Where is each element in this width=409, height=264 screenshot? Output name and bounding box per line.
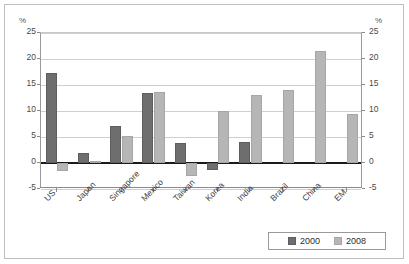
bar-japan-2008: [90, 161, 101, 163]
legend-item-2000: 2000: [288, 236, 320, 246]
gridline-20: [41, 59, 361, 60]
y-tick-right-10: 10: [369, 105, 391, 114]
bar-india-2008: [251, 95, 262, 163]
chart-legend: 2000 2008: [268, 232, 386, 250]
legend-swatch-2008: [334, 237, 342, 245]
gridline-5: [41, 137, 361, 138]
y-tick-right-25: 25: [369, 27, 391, 36]
y-tick-right-15: 15: [369, 79, 391, 88]
bar-mexico-2000: [142, 93, 153, 163]
chart-figure: % % 2520151050-5 2520151050-5 USJapanSin…: [0, 0, 409, 264]
y-tick-left-5: 5: [14, 131, 36, 140]
legend-label-2000: 2000: [300, 236, 320, 246]
y-tick-left--5: -5: [14, 183, 36, 192]
legend-label-2008: 2008: [346, 236, 366, 246]
bar-singapore-2000: [110, 126, 121, 163]
bar-japan-2000: [78, 153, 89, 163]
y-tick-right--5: -5: [369, 183, 391, 192]
bar-us-2008: [57, 163, 68, 171]
y-tickmark-right-15: [362, 84, 365, 85]
y-tickmark-right-0: [362, 162, 365, 163]
bar-singapore-2008: [122, 136, 133, 163]
bar-taiwan-2008: [186, 163, 197, 176]
bar-us-2000: [46, 73, 57, 163]
y-tickmark-right-10: [362, 110, 365, 111]
bar-taiwan-2000: [175, 143, 186, 163]
y-tick-left-20: 20: [14, 53, 36, 62]
y-tickmark-right-5: [362, 136, 365, 137]
y-tickmark-right-25: [362, 32, 365, 33]
bar-brazil-2008: [283, 90, 294, 163]
y-tick-left-10: 10: [14, 105, 36, 114]
bar-india-2000: [239, 142, 250, 163]
plot-area: [40, 32, 362, 188]
y-tick-left-0: 0: [14, 157, 36, 166]
y-tick-right-0: 0: [369, 157, 391, 166]
x-tickmark-us: [56, 188, 57, 192]
bar-em-2008: [347, 114, 358, 163]
gridline-25: [41, 33, 361, 34]
y-tick-left-15: 15: [14, 79, 36, 88]
gridline-15: [41, 85, 361, 86]
y-tick-right-5: 5: [369, 131, 391, 140]
y-tickmark-right-20: [362, 58, 365, 59]
bar-china-2008: [315, 51, 326, 163]
gridline-10: [41, 111, 361, 112]
y-axis-left-unit-label: %: [19, 16, 26, 25]
y-tickmark-right--5: [362, 188, 365, 189]
bar-korea-2000: [207, 163, 218, 170]
legend-item-2008: 2008: [334, 236, 366, 246]
y-tick-right-20: 20: [369, 53, 391, 62]
y-tick-left-25: 25: [14, 27, 36, 36]
bar-mexico-2008: [154, 92, 165, 163]
legend-swatch-2000: [288, 237, 296, 245]
y-axis-right-unit-label: %: [375, 16, 382, 25]
y-tickmark-left--5: [37, 188, 40, 189]
bar-korea-2008: [218, 111, 229, 163]
